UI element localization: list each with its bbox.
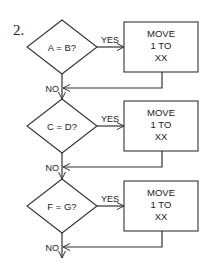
return-arrow (63, 72, 162, 88)
return-arrow (63, 231, 162, 247)
return-arrow (63, 151, 162, 167)
decision-condition: A = B? (48, 42, 76, 53)
figure-number: 2. (13, 22, 24, 38)
no-label: NO (46, 243, 60, 253)
no-label: NO (46, 163, 60, 173)
action-text-line: MOVE (147, 28, 175, 39)
action-text-line: MOVE (147, 187, 175, 198)
action-text-line: XX (155, 52, 168, 63)
action-text-line: 1 TO (151, 119, 172, 130)
yes-label: YES (101, 35, 119, 45)
flowchart: 2. A = B?YESMOVE1 TOXXNOC = D?YESMOVE1 T… (0, 0, 215, 262)
yes-label: YES (101, 114, 119, 124)
no-label: NO (46, 84, 60, 94)
decision-condition: C = D? (47, 121, 77, 132)
action-text-line: 1 TO (151, 199, 172, 210)
decision-condition: F = G? (47, 201, 76, 212)
action-text-line: XX (155, 211, 168, 222)
yes-label: YES (101, 194, 119, 204)
action-text-line: 1 TO (151, 40, 172, 51)
action-text-line: XX (155, 131, 168, 142)
action-text-line: MOVE (147, 107, 175, 118)
